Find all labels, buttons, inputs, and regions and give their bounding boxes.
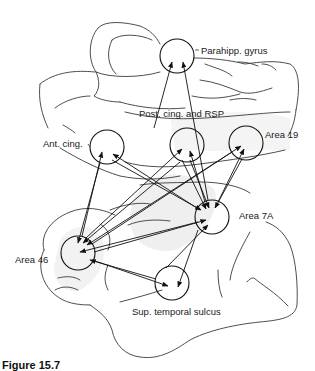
label-area-19: Area 19 [265, 129, 298, 140]
label-area-7a: Area 7A [239, 210, 274, 221]
figure-number: Figure 15.7 [2, 359, 60, 371]
node-parahipp-gyrus [160, 39, 194, 73]
brain-connectivity-diagram: Parahipp. gyrus Post. cing. and RSP Ant.… [0, 0, 315, 371]
label-area-46: Area 46 [15, 254, 48, 265]
label-post-cing: Post. cing. and RSP [139, 108, 224, 119]
label-parahipp-gyrus: Parahipp. gyrus [201, 45, 268, 56]
label-sts: Sup. temporal sulcus [132, 306, 221, 317]
label-ant-cing: Ant. cing. [43, 138, 83, 149]
figure-caption: Figure 15.7 [2, 359, 60, 371]
node-ant-cing [90, 130, 124, 164]
